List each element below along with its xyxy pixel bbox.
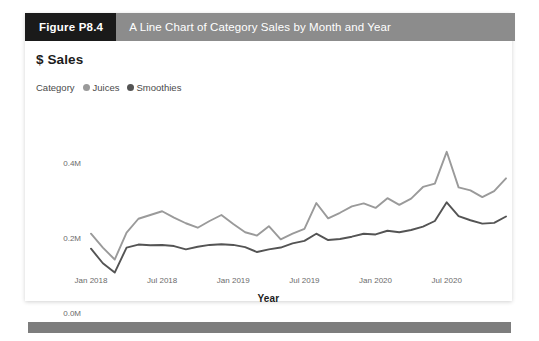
x-axis-title: Year	[25, 293, 512, 304]
legend-title: Category	[36, 82, 75, 93]
figure-caption: A Line Chart of Category Sales by Month …	[116, 13, 391, 41]
figure-header-band: Figure P8.4 A Line Chart of Category Sal…	[25, 13, 515, 41]
legend-label-smoothies: Smoothies	[137, 82, 182, 93]
x-axis-tick-label: Jul 2019	[289, 276, 319, 285]
y-axis-tick-label: 0.0M	[63, 309, 81, 318]
x-axis-tick-labels: Jan 2018Jul 2018Jan 2019Jul 2019Jan 2020…	[25, 276, 512, 290]
legend-item-smoothies[interactable]: Smoothies	[127, 82, 182, 93]
y-axis-tick-label: 0.2M	[63, 234, 81, 243]
legend-label-juices: Juices	[93, 82, 120, 93]
legend-swatch-smoothies	[127, 84, 134, 91]
x-axis-tick-label: Jan 2019	[217, 276, 250, 285]
chart-legend: Category Juices Smoothies	[36, 82, 181, 93]
x-axis-tick-label: Jan 2018	[75, 276, 108, 285]
series-lines	[91, 152, 506, 273]
x-axis-tick-label: Jan 2020	[359, 276, 392, 285]
plot-area: 0.0M0.2M0.4M	[25, 101, 512, 301]
y-axis-tick-label: 0.4M	[63, 159, 81, 168]
figure-number-label: Figure P8.4	[25, 13, 116, 41]
series-line-smoothies	[91, 202, 506, 272]
x-axis-tick-label: Jul 2018	[147, 276, 177, 285]
chart-body: $ Sales Category Juices Smoothies 0.0M0.…	[25, 41, 512, 301]
figure-card: Figure P8.4 A Line Chart of Category Sal…	[25, 13, 512, 301]
chart-title: $ Sales	[36, 52, 83, 67]
x-axis-tick-label: Jul 2020	[432, 276, 462, 285]
legend-item-juices[interactable]: Juices	[83, 82, 120, 93]
legend-swatch-juices	[83, 84, 90, 91]
page-bottom-bar	[28, 322, 511, 333]
